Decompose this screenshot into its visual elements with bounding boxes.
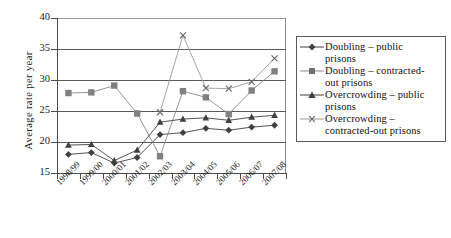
legend-label: Overcrowding –contracted-out prisons [325, 113, 442, 136]
data-point-triangle [157, 119, 164, 125]
data-point-triangle [134, 146, 141, 152]
gridline [57, 49, 286, 50]
y-axis-label: 20 [10, 135, 50, 146]
data-point-square [65, 90, 71, 96]
data-point-diamond [134, 154, 141, 161]
axis-line-right [285, 18, 286, 173]
data-point-diamond [65, 151, 72, 158]
chart-legend: Doubling – publicprisons Doubling – cont… [296, 36, 446, 142]
square-marker-icon [299, 65, 325, 78]
gridline [57, 111, 286, 112]
gridline [57, 142, 286, 143]
legend-item-overcrowding-contracted: Overcrowding –contracted-out prisons [299, 113, 442, 136]
x-marker-icon [299, 113, 325, 126]
y-axis-label: 30 [10, 73, 50, 84]
y-axis-tick [51, 142, 58, 143]
data-point-square [271, 68, 277, 74]
axis-line-top [57, 18, 286, 19]
legend-item-doubling-public: Doubling – publicprisons [299, 41, 442, 64]
x-axis-tick [286, 173, 287, 179]
y-axis-label: 15 [10, 166, 50, 177]
y-axis-tick [51, 80, 58, 81]
data-point-x [203, 85, 209, 91]
data-point-triangle [271, 112, 278, 118]
data-point-diamond [271, 122, 278, 129]
axis-line-left [57, 18, 58, 173]
series-line [160, 35, 274, 112]
y-axis-label: 40 [10, 11, 50, 22]
y-axis-label: 35 [10, 42, 50, 53]
data-point-square [157, 153, 163, 159]
y-axis-tick [51, 49, 58, 50]
data-point-triangle [225, 117, 232, 123]
data-point-diamond [248, 124, 255, 131]
data-point-diamond [225, 127, 232, 134]
data-point-diamond [180, 129, 187, 136]
data-point-square [88, 89, 94, 95]
legend-item-overcrowding-public: Overcrowding – publicprisons [299, 89, 442, 112]
series-line [68, 115, 274, 160]
data-point-diamond [202, 125, 209, 132]
data-point-x [226, 86, 232, 92]
data-point-triangle [202, 114, 209, 120]
data-point-triangle [180, 115, 187, 121]
legend-label: Doubling – publicprisons [325, 41, 442, 64]
legend-label: Overcrowding – publicprisons [325, 89, 442, 112]
legend-label: Doubling – contracted-out prisons [325, 65, 442, 88]
series-line [68, 125, 274, 163]
y-axis-tick [51, 18, 58, 19]
data-point-square [180, 88, 186, 94]
data-point-x [272, 55, 278, 61]
data-point-x [180, 32, 186, 38]
triangle-marker-icon [299, 89, 325, 102]
chart-container: Average rate per year 1520253035401998/9… [0, 0, 451, 238]
data-point-diamond [88, 149, 95, 156]
data-point-square [248, 87, 254, 93]
series-line [68, 71, 274, 156]
data-point-diamond [157, 131, 164, 138]
gridline [57, 80, 286, 81]
y-axis-label: 25 [10, 104, 50, 115]
data-point-square [111, 82, 117, 88]
legend-item-doubling-contracted: Doubling – contracted-out prisons [299, 65, 442, 88]
diamond-marker-icon [299, 41, 325, 54]
y-axis-tick [51, 111, 58, 112]
data-point-square [203, 94, 209, 100]
data-point-triangle [248, 114, 255, 120]
